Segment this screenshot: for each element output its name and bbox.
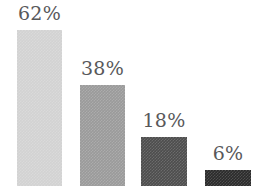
bar-group-4: 6% — [205, 170, 251, 186]
bar-value-label-2: 38% — [81, 59, 124, 78]
bar-2 — [80, 85, 125, 186]
bar-group-1: 62% — [17, 30, 62, 186]
bar-value-label-4: 6% — [213, 144, 244, 163]
bar-value-label-3: 18% — [143, 111, 186, 130]
bar-group-2: 38% — [80, 85, 125, 186]
bar-value-label-1: 62% — [18, 4, 61, 23]
bar-group-3: 18% — [141, 137, 187, 186]
bar-1 — [17, 30, 62, 186]
bar-4 — [205, 170, 251, 186]
plot-area: 62% 38% 18% 6% — [0, 0, 272, 194]
bar-chart: 62% 38% 18% 6% — [0, 0, 272, 194]
bar-3 — [141, 137, 187, 186]
